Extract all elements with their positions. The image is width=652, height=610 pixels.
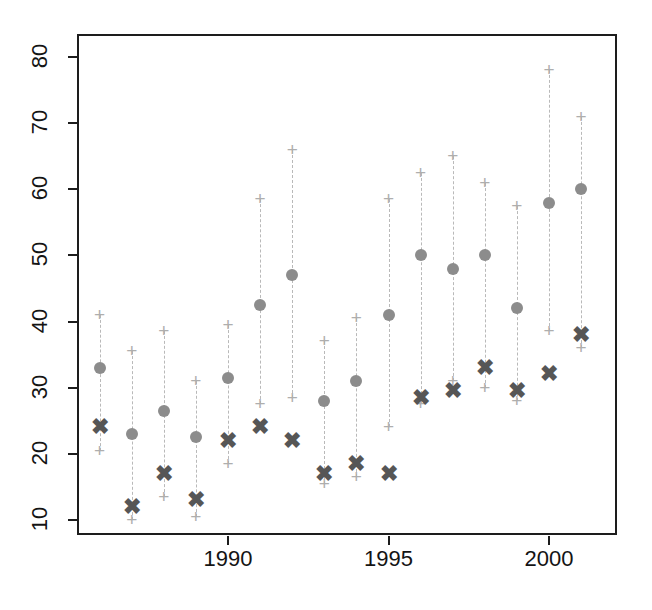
y-tick bbox=[68, 188, 77, 190]
circle-marker bbox=[543, 197, 555, 209]
interval-upper-marker: + bbox=[444, 147, 462, 165]
y-tick-label-text: 50 bbox=[27, 242, 53, 266]
cross-marker: ✖ bbox=[475, 358, 495, 378]
interval-lower-marker: + bbox=[219, 455, 237, 473]
interval-upper-marker: + bbox=[155, 322, 173, 340]
interval-upper-marker: + bbox=[251, 190, 269, 208]
circle-marker bbox=[383, 309, 395, 321]
y-tick-label: 30 bbox=[18, 374, 62, 400]
interval-line bbox=[421, 173, 422, 405]
cross-marker: ✖ bbox=[218, 431, 238, 451]
y-tick-label: 80 bbox=[18, 43, 62, 69]
circle-marker bbox=[222, 372, 234, 384]
y-tick bbox=[68, 387, 77, 389]
cross-marker: ✖ bbox=[571, 325, 591, 345]
y-tick-label: 70 bbox=[18, 109, 62, 135]
cross-marker: ✖ bbox=[411, 388, 431, 408]
cross-marker: ✖ bbox=[379, 464, 399, 484]
y-tick bbox=[68, 122, 77, 124]
y-tick bbox=[68, 321, 77, 323]
circle-marker bbox=[126, 428, 138, 440]
cross-marker: ✖ bbox=[507, 381, 527, 401]
interval-upper-marker: + bbox=[91, 306, 109, 324]
cross-marker: ✖ bbox=[282, 431, 302, 451]
x-tick-label: 1995 bbox=[349, 546, 429, 572]
interval-lower-marker: + bbox=[251, 395, 269, 413]
interval-upper-marker: + bbox=[380, 190, 398, 208]
interval-upper-marker: + bbox=[540, 61, 558, 79]
interval-lower-marker: + bbox=[380, 418, 398, 436]
cross-marker: ✖ bbox=[154, 464, 174, 484]
interval-upper-marker: + bbox=[219, 316, 237, 334]
y-tick bbox=[68, 56, 77, 58]
interval-upper-marker: + bbox=[347, 309, 365, 327]
x-tick bbox=[548, 536, 550, 545]
cross-marker: ✖ bbox=[443, 381, 463, 401]
interval-lower-marker: + bbox=[91, 442, 109, 460]
circle-marker bbox=[94, 362, 106, 374]
cross-marker: ✖ bbox=[90, 417, 110, 437]
x-tick bbox=[227, 536, 229, 545]
y-tick-label-text: 30 bbox=[27, 374, 53, 398]
y-tick-label: 50 bbox=[18, 241, 62, 267]
cross-marker: ✖ bbox=[186, 490, 206, 510]
interval-upper-marker: + bbox=[315, 332, 333, 350]
cross-marker: ✖ bbox=[314, 464, 334, 484]
y-tick-label-text: 10 bbox=[27, 507, 53, 531]
x-tick-label: 1990 bbox=[188, 546, 268, 572]
interval-lower-marker: + bbox=[540, 322, 558, 340]
interval-upper-marker: + bbox=[508, 197, 526, 215]
circle-marker bbox=[158, 405, 170, 417]
interval-lower-marker: + bbox=[476, 379, 494, 397]
y-tick-label-text: 20 bbox=[27, 441, 53, 465]
circle-marker bbox=[415, 249, 427, 261]
interval-upper-marker: + bbox=[412, 164, 430, 182]
y-tick-label: 20 bbox=[18, 440, 62, 466]
y-tick-label-text: 60 bbox=[27, 176, 53, 200]
y-tick-label: 60 bbox=[18, 175, 62, 201]
cross-marker: ✖ bbox=[250, 417, 270, 437]
circle-marker bbox=[447, 263, 459, 275]
y-tick-label-text: 80 bbox=[27, 44, 53, 68]
interval-line bbox=[581, 117, 582, 349]
interval-lower-marker: + bbox=[283, 389, 301, 407]
interval-upper-marker: + bbox=[283, 141, 301, 159]
y-tick bbox=[68, 254, 77, 256]
interval-upper-marker: + bbox=[476, 174, 494, 192]
y-tick-label-text: 40 bbox=[27, 308, 53, 332]
interval-lower-marker: + bbox=[155, 488, 173, 506]
y-tick bbox=[68, 519, 77, 521]
cross-marker: ✖ bbox=[346, 454, 366, 474]
y-tick bbox=[68, 453, 77, 455]
interval-upper-marker: + bbox=[123, 342, 141, 360]
y-tick-label: 40 bbox=[18, 308, 62, 334]
x-tick-label: 2000 bbox=[509, 546, 589, 572]
y-tick-label: 10 bbox=[18, 506, 62, 532]
interval-upper-marker: + bbox=[187, 372, 205, 390]
chart-canvas: 1020304050607080 199019952000 ++✖++✖++✖+… bbox=[0, 0, 652, 610]
x-tick bbox=[388, 536, 390, 545]
cross-marker: ✖ bbox=[122, 497, 142, 517]
interval-upper-marker: + bbox=[572, 108, 590, 126]
y-tick-label-text: 70 bbox=[27, 110, 53, 134]
cross-marker: ✖ bbox=[539, 364, 559, 384]
